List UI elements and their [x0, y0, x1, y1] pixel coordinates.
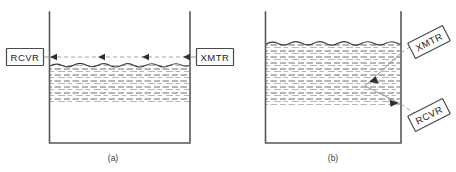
panel-a-caption: (a) [108, 153, 119, 163]
panel-a: RCVR XMTR (a) [7, 12, 234, 163]
panel-b: XMTR RCVR (b) [266, 12, 451, 163]
panel-b-liquid-body [266, 43, 400, 105]
panel-a-receiver-label: RCVR [11, 52, 40, 63]
panel-b-transmitter[interactable]: XMTR [408, 26, 450, 59]
panel-b-caption: (b) [328, 153, 339, 163]
panel-a-liquid-body [50, 65, 189, 104]
panel-a-receiver[interactable]: RCVR [7, 49, 44, 66]
panel-b-receiver[interactable]: RCVR [408, 99, 450, 132]
panel-a-transmitter[interactable]: XMTR [197, 49, 234, 66]
panel-a-transmitter-label: XMTR [201, 52, 230, 63]
panel-b-receiver-leader [401, 104, 414, 113]
figure-ultrasonic-level-measurement: RCVR XMTR (a) [0, 0, 456, 172]
